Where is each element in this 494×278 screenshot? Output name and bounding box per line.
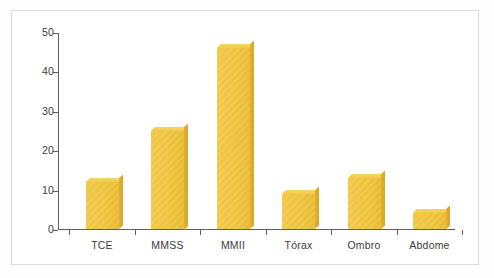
y-axis-line xyxy=(58,33,59,230)
bar-top-face xyxy=(282,190,319,194)
bar-ombro xyxy=(348,178,381,229)
bar-abdome xyxy=(413,213,446,229)
plot-area: 01020304050 TCEMMSSMMIITóraxOmbroAbdome xyxy=(58,33,455,230)
x-axis-label-mmss: MMSS xyxy=(135,239,201,251)
x-axis-tick-mark xyxy=(331,230,332,235)
x-axis-tick-mark xyxy=(69,230,70,235)
bar-top-face xyxy=(348,174,385,178)
y-axis-tick-label: 50 xyxy=(42,26,54,38)
bar-side-face xyxy=(184,123,188,229)
x-axis-label-ombro: Ombro xyxy=(331,239,397,251)
bar-top-face xyxy=(413,209,450,213)
x-axis-tick-mark xyxy=(200,230,201,235)
x-axis-tick-mark xyxy=(462,230,463,235)
bar-side-face xyxy=(250,40,254,229)
y-axis-tick-label: 0 xyxy=(48,223,54,235)
x-axis-label-tce: TCE xyxy=(69,239,135,251)
bar-tórax xyxy=(282,194,315,229)
bar-side-face xyxy=(381,170,385,229)
x-axis-label-abdome: Abdome xyxy=(397,239,463,251)
bar-top-face xyxy=(217,44,254,48)
bar-chart-figure: 01020304050 TCEMMSSMMIITóraxOmbroAbdome xyxy=(0,0,494,278)
bar-side-face xyxy=(119,174,123,229)
y-axis-tick-label: 10 xyxy=(42,184,54,196)
bar-side-face xyxy=(315,186,319,229)
x-axis-line xyxy=(58,229,455,230)
bar-top-face xyxy=(151,127,188,131)
y-axis-tick-label: 20 xyxy=(42,144,54,156)
x-axis-label-tórax: Tórax xyxy=(266,239,332,251)
x-axis-label-mmii: MMII xyxy=(200,239,266,251)
bar-side-face xyxy=(446,206,450,229)
bar-mmss xyxy=(151,131,184,230)
bar-mmii xyxy=(217,48,250,229)
x-axis-tick-mark xyxy=(397,230,398,235)
bar-tce xyxy=(86,182,119,229)
x-axis-tick-mark xyxy=(135,230,136,235)
bar-top-face xyxy=(86,178,123,182)
y-axis-tick-label: 40 xyxy=(42,65,54,77)
y-axis-tick-label: 30 xyxy=(42,105,54,117)
x-axis-tick-mark xyxy=(266,230,267,235)
